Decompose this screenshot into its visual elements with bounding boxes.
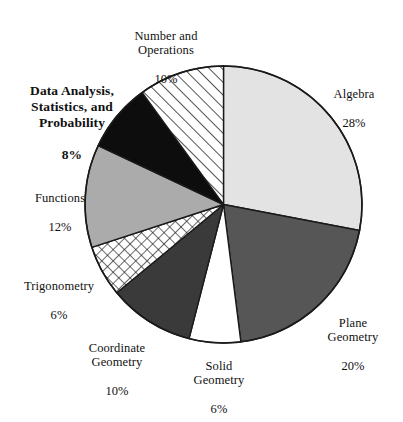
pie-chart-figure: Number and Operations 10% Data Analysis,… <box>0 0 403 422</box>
pie-label-name: Coordinate Geometry <box>65 341 169 370</box>
pie-label-value: 8% <box>6 147 138 163</box>
pie-label-value: 20% <box>310 359 396 374</box>
pie-label-algebra: Algebra 28% <box>312 72 396 145</box>
pie-label-name: Functions <box>14 191 106 206</box>
pie-label-trigonometry: Trigonometry 6% <box>9 264 109 337</box>
pie-label-value: 12% <box>14 220 106 235</box>
pie-label-coordinate-geometry: Coordinate Geometry 10% <box>65 326 169 413</box>
pie-label-solid-geometry: Solid Geometry 6% <box>181 344 257 422</box>
pie-label-name: Number and Operations <box>108 29 224 58</box>
pie-label-name: Solid Geometry <box>181 359 257 388</box>
pie-label-functions: Functions 12% <box>14 176 106 249</box>
pie-label-plane-geometry: Plane Geometry 20% <box>310 301 396 388</box>
pie-label-name: Algebra <box>312 87 396 102</box>
pie-label-data-analysis: Data Analysis, Statistics, and Probabili… <box>6 67 138 179</box>
pie-label-value: 6% <box>9 308 109 323</box>
pie-label-name: Data Analysis, Statistics, and Probabili… <box>6 83 138 131</box>
pie-label-value: 10% <box>65 384 169 399</box>
pie-label-value: 6% <box>181 402 257 417</box>
pie-label-name: Trigonometry <box>9 279 109 294</box>
pie-label-value: 28% <box>312 116 396 131</box>
pie-label-name: Plane Geometry <box>310 316 396 345</box>
